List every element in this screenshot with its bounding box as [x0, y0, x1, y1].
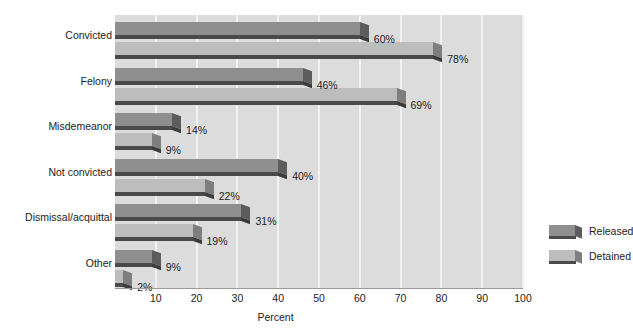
x-axis-title: Percent	[0, 311, 551, 323]
category-label: Not convicted	[0, 166, 112, 178]
bar-released	[115, 204, 241, 217]
legend-swatch-detained-icon	[549, 250, 576, 261]
value-label: 69%	[411, 100, 432, 111]
category-label: Dismissal/acquittal	[0, 211, 112, 223]
bar-detained	[115, 88, 397, 101]
category-label: Felony	[0, 75, 112, 87]
x-tick-label: 100	[514, 292, 532, 304]
category-label: Misdemeanor	[0, 120, 112, 132]
bar-released	[115, 22, 360, 35]
value-label: 2%	[137, 282, 152, 293]
plot-area: 60%78%46%69%14%9%40%22%31%19%9%2% Releas…	[115, 15, 523, 288]
value-label: 14%	[186, 125, 207, 136]
legend-swatch-released-icon	[549, 225, 576, 236]
gridline	[522, 15, 524, 288]
x-tick-label: 80	[436, 292, 448, 304]
x-tick-label: 10	[150, 292, 162, 304]
bar-detained	[115, 224, 193, 237]
bar-detained	[115, 179, 205, 192]
value-label: 9%	[166, 145, 181, 156]
value-label: 46%	[317, 80, 338, 91]
value-label: 40%	[292, 171, 313, 182]
x-tick-label: 90	[476, 292, 488, 304]
x-tick-label: 60	[354, 292, 366, 304]
value-label: 22%	[219, 191, 240, 202]
legend-label-released: Released	[589, 225, 633, 237]
category-label: Convicted	[0, 29, 112, 41]
value-label: 9%	[166, 262, 181, 273]
x-axis-line	[115, 288, 523, 289]
bar-released	[115, 113, 172, 126]
x-tick-label: 20	[191, 292, 203, 304]
value-label: 60%	[374, 34, 395, 45]
x-tick-label: 30	[232, 292, 244, 304]
bar-detained	[115, 133, 152, 146]
value-label: 78%	[447, 54, 468, 65]
bar-released	[115, 68, 303, 81]
legend-label-detained: Detained	[589, 250, 631, 262]
bar-released	[115, 159, 278, 172]
x-tick-label: 40	[272, 292, 284, 304]
category-label: Other	[0, 257, 112, 269]
x-tick-label: 70	[395, 292, 407, 304]
x-tick-label: 50	[313, 292, 325, 304]
bar-released	[115, 250, 152, 263]
gridline	[481, 15, 483, 288]
bar-detained	[115, 270, 123, 283]
category-axis-labels: ConvictedFelonyMisdemeanorNot convictedD…	[0, 15, 112, 288]
value-label: 19%	[207, 236, 228, 247]
value-label: 31%	[255, 216, 276, 227]
